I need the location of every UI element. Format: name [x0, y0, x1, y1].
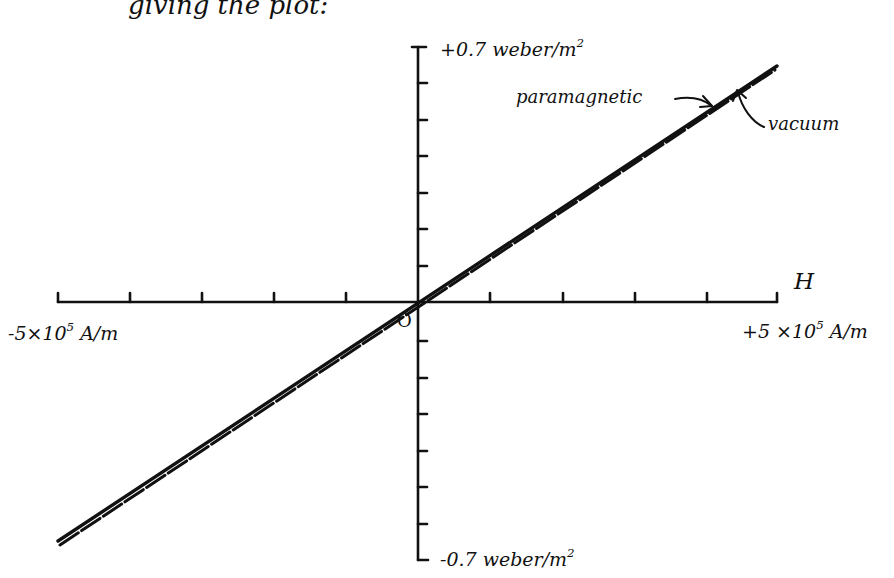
b-vs-h-plot: giving the plot:	[0, 0, 894, 578]
x-axis-label-h: H	[794, 270, 814, 293]
vacuum-arrow	[738, 92, 764, 127]
y-max-label: +0.7 weber/m2	[440, 38, 584, 59]
paramagnetic-annotation: paramagnetic	[516, 88, 642, 106]
x-max-label: +5 ×105 A/m	[742, 320, 868, 341]
caption-fragment: giving the plot:	[128, 0, 328, 20]
y-min-label: -0.7 weber/m2	[440, 548, 575, 569]
origin-label: O	[397, 312, 412, 330]
vacuum-annotation: vacuum	[768, 115, 839, 133]
x-min-label: -5×105 A/m	[8, 322, 118, 343]
